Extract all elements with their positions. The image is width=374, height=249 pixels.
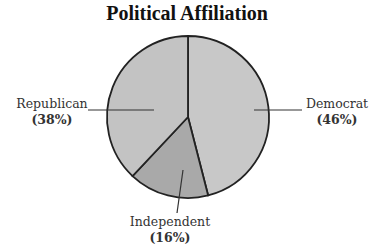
label-republican-pct: (38%) <box>2 112 102 128</box>
label-republican: Republican (38%) <box>2 96 102 128</box>
label-independent: Independent (16%) <box>110 214 230 246</box>
label-independent-pct: (16%) <box>110 230 230 246</box>
label-independent-name: Independent <box>110 214 230 230</box>
label-democrat-pct: (46%) <box>300 112 374 128</box>
label-democrat-name: Democrat <box>300 96 374 112</box>
label-republican-name: Republican <box>2 96 102 112</box>
label-democrat: Democrat (46%) <box>300 96 374 128</box>
